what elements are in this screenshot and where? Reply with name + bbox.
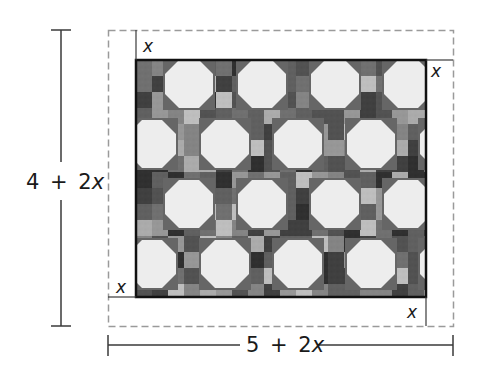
- label-x-bottom-left: x: [115, 277, 127, 297]
- width-label: 5 + 2x: [246, 333, 325, 357]
- label-x-top-right: x: [430, 61, 442, 81]
- height-label: 4 + 2x: [26, 170, 105, 194]
- height-dimension: 4 + 2x: [26, 30, 105, 326]
- quilt-image: [126, 58, 470, 350]
- label-x-bottom-right: x: [406, 302, 418, 322]
- quilt-diagram: x x x x 4 + 2x 5 + 2x: [0, 0, 479, 373]
- width-dimension: 5 + 2x: [108, 333, 453, 357]
- label-x-top-left: x: [142, 36, 154, 56]
